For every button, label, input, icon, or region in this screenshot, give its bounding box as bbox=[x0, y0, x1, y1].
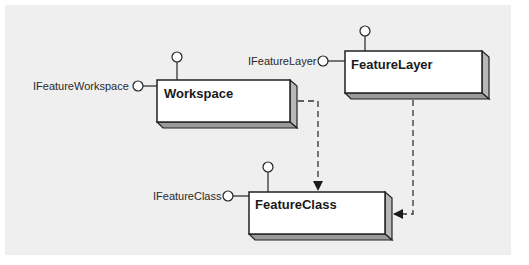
class-name-featureclass: FeatureClass bbox=[255, 197, 337, 212]
interface-label: IFeatureWorkspace bbox=[33, 80, 129, 92]
interface-circle-icon bbox=[172, 52, 182, 62]
class-workspace[interactable]: Workspace bbox=[157, 80, 297, 128]
interface-ifeatureclass[interactable]: IFeatureClass bbox=[153, 190, 249, 202]
lollipop-featureclass-top bbox=[263, 162, 273, 192]
box-side-face bbox=[290, 80, 297, 128]
interface-circle-icon bbox=[360, 26, 370, 36]
class-featurelayer[interactable]: FeatureLayer bbox=[345, 51, 489, 99]
interface-label: IFeatureClass bbox=[153, 190, 222, 202]
lollipop-featurelayer-top bbox=[360, 26, 370, 51]
uml-diagram: Workspace IFeatureWorkspace FeatureLayer… bbox=[0, 0, 529, 265]
box-bottom-face bbox=[249, 234, 392, 240]
interface-ifeatureworkspace[interactable]: IFeatureWorkspace bbox=[33, 80, 157, 92]
box-bottom-face bbox=[345, 93, 489, 99]
box-bottom-face bbox=[157, 122, 297, 128]
class-name-workspace: Workspace bbox=[164, 86, 233, 101]
interface-ifeaturelayer[interactable]: IFeatureLayer bbox=[248, 55, 345, 67]
relationship-workspace-to-featureclass bbox=[298, 101, 318, 190]
lollipop-workspace-top bbox=[172, 52, 182, 80]
interface-circle-icon bbox=[133, 81, 143, 91]
interface-circle-icon bbox=[223, 191, 233, 201]
class-name-featurelayer: FeatureLayer bbox=[351, 57, 433, 72]
interface-circle-icon bbox=[263, 162, 273, 172]
interface-label: IFeatureLayer bbox=[248, 55, 317, 67]
interface-circle-icon bbox=[318, 56, 328, 66]
relationship-featurelayer-to-featureclass bbox=[394, 100, 413, 214]
class-featureclass[interactable]: FeatureClass bbox=[249, 192, 392, 240]
box-side-face bbox=[482, 51, 489, 99]
box-side-face bbox=[385, 192, 392, 240]
